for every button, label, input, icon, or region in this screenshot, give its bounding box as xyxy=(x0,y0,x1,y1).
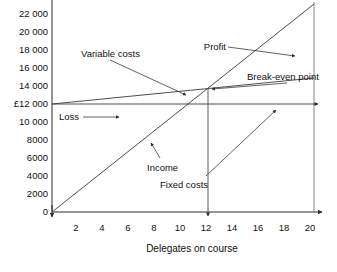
x-tick-16: 16 xyxy=(253,222,264,233)
annotation-profit: Profit xyxy=(204,41,227,52)
break-even-leader-line xyxy=(212,83,287,89)
income-leader-line xyxy=(151,143,160,158)
y-tick-4000: 4000 xyxy=(27,170,48,181)
y-axis-tick-labels: 22 000 20 000 18 000 16 000 14 000 12 00… xyxy=(19,8,48,217)
x-tick-18: 18 xyxy=(279,222,290,233)
x-tick-2: 2 xyxy=(73,222,78,233)
annotation-break-even-point: Break-even point xyxy=(247,71,319,82)
y-tick-18000: 18 000 xyxy=(19,44,48,55)
y-tick-22000: 22 000 xyxy=(19,8,48,19)
annotation-leaders xyxy=(83,47,295,176)
annotation-variable-costs: Variable costs xyxy=(81,48,140,59)
y-tick-6000: 6000 xyxy=(27,152,48,163)
x-tick-12: 12 xyxy=(201,222,212,233)
x-tick-14: 14 xyxy=(227,222,238,233)
y-tick-16000: 16 000 xyxy=(19,62,48,73)
annotation-income: Income xyxy=(147,162,178,173)
annotation-loss: Loss xyxy=(59,111,79,122)
fixed-costs-leader-line xyxy=(206,110,276,176)
x-tick-4: 4 xyxy=(99,222,104,233)
x-tick-6: 6 xyxy=(125,222,130,233)
x-axis-tick-labels: 2 4 6 8 10 12 14 16 18 20 xyxy=(73,222,315,233)
x-tick-10: 10 xyxy=(175,222,186,233)
y-tick-8000: 8000 xyxy=(27,134,48,145)
y-tick-20000: 20 000 xyxy=(19,26,48,37)
x-axis-title: Delegates on course xyxy=(146,243,238,254)
y-tick-10000: 10 000 xyxy=(19,116,48,127)
y-tick-0: 0 xyxy=(43,206,48,217)
annotation-fixed-costs: Fixed costs xyxy=(160,179,208,190)
chart-canvas: 22 000 20 000 18 000 16 000 14 000 12 00… xyxy=(0,0,337,272)
y-tick-12000: 12 000 xyxy=(19,98,48,109)
y-axis-unit-label: £ xyxy=(14,98,20,109)
x-tick-20: 20 xyxy=(305,222,316,233)
y-tick-14000: 14 000 xyxy=(19,80,48,91)
break-even-chart: 22 000 20 000 18 000 16 000 14 000 12 00… xyxy=(0,0,337,272)
profit-leader-line xyxy=(228,47,295,56)
annotation-labels: Profit Variable costs Break-even point L… xyxy=(59,41,319,190)
y-tick-2000: 2000 xyxy=(27,188,48,199)
x-tick-8: 8 xyxy=(151,222,156,233)
variable-costs-leader-line xyxy=(110,60,186,95)
